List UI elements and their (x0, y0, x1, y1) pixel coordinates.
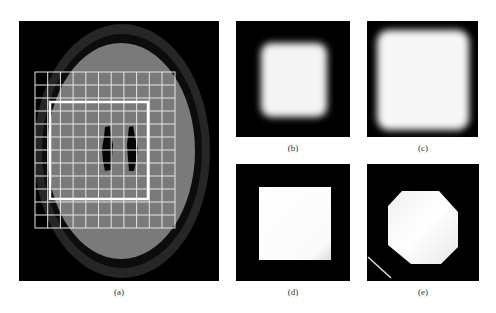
phantom-image (19, 21, 219, 281)
octagon-shape (388, 191, 458, 264)
blurred-square-image (236, 21, 350, 137)
octagon-image (367, 164, 479, 281)
panel-b-blurred-square-small (236, 21, 350, 137)
panel-a-phantom-grid (19, 21, 219, 281)
blurred-square-image (367, 21, 478, 137)
panel-c-blurred-square-large (367, 21, 478, 137)
caption-e: (e) (413, 287, 433, 297)
caption-d: (d) (283, 287, 303, 297)
inner-region (47, 43, 195, 259)
caption-a: (a) (109, 287, 129, 297)
sharp-square-image (236, 164, 350, 281)
caption-c: (c) (413, 143, 433, 153)
caption-b: (b) (283, 143, 303, 153)
panel-d-sharp-square (236, 164, 350, 281)
panel-e-octagon (367, 164, 479, 281)
